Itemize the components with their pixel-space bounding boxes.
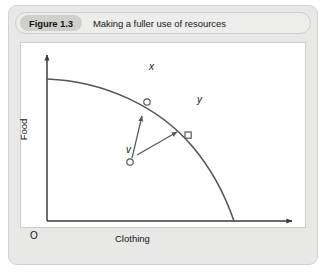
arrow-v-to-x <box>132 116 142 158</box>
figure-card: Figure 1.3 Making a fuller use of resour… <box>8 5 318 265</box>
data-point-y-label: y <box>197 94 202 105</box>
data-point-v-label: v <box>126 144 131 155</box>
x-axis-label: Clothing <box>115 233 150 244</box>
origin-label: O <box>30 230 38 241</box>
data-point-y-marker <box>185 132 191 138</box>
arrow-v-to-y <box>137 132 177 155</box>
graph-canvas <box>9 6 319 266</box>
data-point-x-label: x <box>149 61 154 72</box>
data-point-v-marker <box>127 159 133 165</box>
data-point-x-marker <box>144 99 150 105</box>
production-possibility-curve <box>47 79 234 221</box>
y-axis-label: Food <box>18 108 29 152</box>
